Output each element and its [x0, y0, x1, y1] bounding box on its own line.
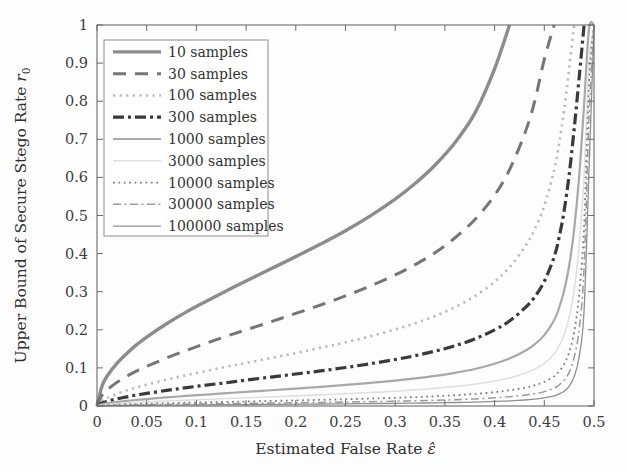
legend-label-3000-samples: 3000 samples — [168, 153, 266, 169]
y-tick-label: 0.9 — [65, 55, 88, 71]
x-tick-label: 0.1 — [185, 414, 208, 430]
figure-background — [0, 0, 628, 472]
y-tick-label: 0.8 — [65, 93, 88, 109]
legend-label-10-samples: 10 samples — [168, 44, 248, 60]
y-tick-label: 0.6 — [65, 169, 88, 185]
x-tick-label: 0.35 — [429, 414, 461, 430]
y-tick-label: 0.3 — [65, 284, 88, 300]
y-tick-label: 0.5 — [65, 208, 88, 224]
x-axis-symbol: ε̂ — [427, 440, 435, 458]
y-tick-label: 0.4 — [65, 246, 88, 262]
x-axis-title: Estimated False Rate ε̂ — [255, 440, 436, 458]
x-tick-label: 0.5 — [582, 414, 605, 430]
x-tick-label: 0.4 — [483, 414, 506, 430]
x-tick-label: 0.05 — [131, 414, 163, 430]
legend-label-30-samples: 30 samples — [168, 66, 248, 82]
figure-page: 00.050.10.150.20.250.30.350.40.450.5 00.… — [0, 0, 628, 472]
x-tick-label: 0.3 — [384, 414, 407, 430]
legend: 10 samples30 samples100 samples300 sampl… — [104, 40, 284, 236]
y-tick-label: 0.1 — [65, 360, 88, 376]
y-tick-label: 1 — [79, 17, 88, 33]
legend-label-100-samples: 100 samples — [168, 87, 257, 103]
y-tick-label: 0 — [79, 398, 88, 414]
legend-label-300-samples: 300 samples — [168, 109, 257, 125]
y-axis-title: Upper Bound of Secure Stego Rate r0 — [12, 68, 32, 364]
legend-label-100000-samples: 100000 samples — [168, 218, 284, 234]
legend-label-10000-samples: 10000 samples — [168, 175, 275, 191]
x-tick-label: 0.25 — [329, 414, 361, 430]
x-tick-label: 0 — [92, 414, 101, 430]
x-tick-label: 0.15 — [230, 414, 262, 430]
legend-label-1000-samples: 1000 samples — [168, 131, 266, 147]
chart-figure: 00.050.10.150.20.250.30.350.40.450.5 00.… — [0, 0, 628, 472]
legend-label-30000-samples: 30000 samples — [168, 196, 275, 212]
y-axis-symbol-subscript: 0 — [20, 68, 32, 75]
y-tick-label: 0.7 — [65, 131, 88, 147]
y-tick-label: 0.2 — [65, 322, 88, 338]
x-tick-label: 0.2 — [284, 414, 307, 430]
x-tick-label: 0.45 — [528, 414, 560, 430]
